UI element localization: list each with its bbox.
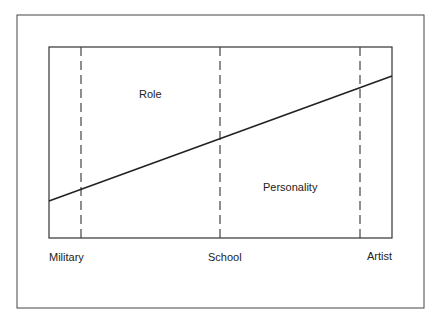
role-region-label: Role (139, 88, 162, 100)
personality-region-label: Personality (263, 181, 317, 193)
axis-label-school: School (208, 251, 242, 263)
diagram-canvas (0, 0, 441, 323)
axis-label-military: Military (49, 251, 84, 263)
axis-label-artist: Artist (367, 250, 392, 262)
